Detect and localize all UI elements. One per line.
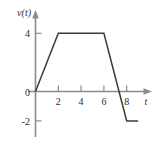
y-axis-label: v(t) xyxy=(17,7,32,19)
x-tick-label-4: 4 xyxy=(79,96,84,107)
x-tick-label-2: 2 xyxy=(56,96,61,107)
y-tick-label-0: 0 xyxy=(25,87,30,98)
x-tick-label-6: 6 xyxy=(101,96,106,107)
y-tick-label-neg2: -2 xyxy=(22,116,30,127)
velocity-time-plot: 4 0 -2 2 4 6 8 v(t) t xyxy=(0,0,162,144)
x-axis-label: t xyxy=(145,96,148,107)
x-axis-arrow-icon xyxy=(144,88,153,95)
y-tick-label-4: 4 xyxy=(25,28,30,39)
chart-figure: 4 0 -2 2 4 6 8 v(t) t xyxy=(0,0,162,144)
x-tick-label-8: 8 xyxy=(124,96,129,107)
data-series-v-of-t xyxy=(36,33,139,121)
y-axis-arrow-icon xyxy=(32,10,39,19)
